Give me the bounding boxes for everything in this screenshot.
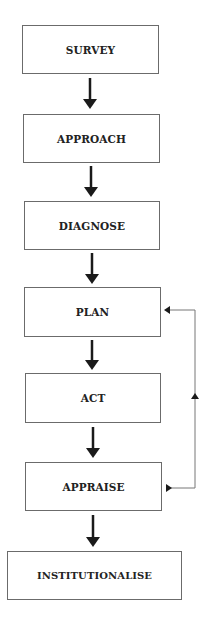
- step-diagnose: DIAGNOSE: [24, 201, 160, 250]
- arrow-plan-to-act: [85, 340, 99, 370]
- arrow-left-icon: [164, 306, 170, 314]
- step-label: DIAGNOSE: [59, 220, 125, 232]
- arrow-up-icon: [191, 393, 199, 399]
- step-label: INSTITUTIONALISE: [37, 570, 152, 581]
- arrow-act-to-appraise: [86, 427, 100, 458]
- step-label: ACT: [81, 392, 106, 404]
- step-label: SURVEY: [66, 44, 115, 56]
- arrow-diagnose-to-plan: [85, 253, 99, 284]
- step-approach: APPROACH: [23, 114, 160, 163]
- arrow-approach-to-diagnose: [84, 166, 98, 197]
- feedback-loop-appraise-to-plan: [164, 306, 199, 492]
- step-plan: PLAN: [24, 287, 161, 337]
- step-appraise: APPRAISE: [25, 462, 162, 511]
- step-label: APPRAISE: [62, 481, 124, 493]
- flowchart-diagram: SURVEY APPROACH DIAGNOSE PLAN ACT APPRAI…: [0, 0, 204, 630]
- step-label: PLAN: [76, 306, 109, 318]
- step-institutionalise: INSTITUTIONALISE: [7, 551, 182, 600]
- step-label: APPROACH: [57, 133, 126, 145]
- step-survey: SURVEY: [22, 25, 159, 74]
- arrow-right-icon: [166, 484, 172, 492]
- arrow-survey-to-approach: [83, 78, 97, 109]
- arrow-appraise-to-institutionalise: [86, 515, 100, 547]
- step-act: ACT: [25, 373, 161, 423]
